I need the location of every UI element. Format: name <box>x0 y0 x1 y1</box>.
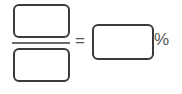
fraction-bar <box>12 42 70 44</box>
denominator-input-box[interactable] <box>13 48 70 82</box>
percentage-result-input-box[interactable] <box>92 24 154 60</box>
numerator-input-box[interactable] <box>13 4 70 38</box>
equals-sign: = <box>75 32 85 49</box>
percent-sign: % <box>154 31 169 49</box>
